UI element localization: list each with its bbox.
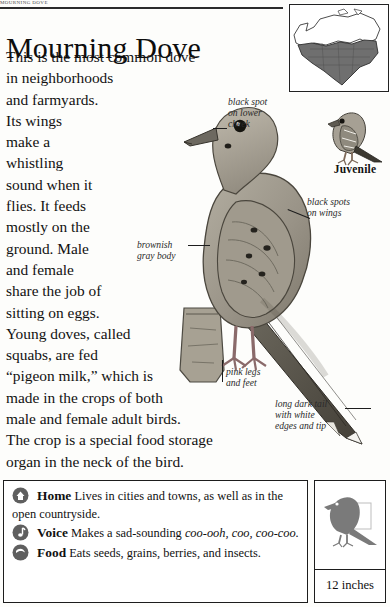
range-map: [289, 4, 389, 92]
fact-row-home: Home Lives in cities and towns, as well …: [12, 487, 299, 523]
fact-text-voice: Makes a sad-sounding: [71, 526, 185, 540]
juvenile-label: Juvenile: [322, 163, 388, 175]
header-rule: [0, 7, 283, 9]
running-head: MOURNING DOVE: [0, 0, 132, 6]
field-guide-page: MOURNING DOVE Mourning Dove: [0, 0, 390, 607]
voice-note-icon: [12, 524, 29, 541]
callout-tail: long dark tail with white edges and tip: [275, 398, 327, 432]
fact-text-food: Eats seeds, grains, berries, and insects…: [69, 546, 261, 560]
callout-wings: black spots on wings: [307, 196, 350, 218]
body-paragraph: This is the most common dove in neighbor…: [6, 46, 264, 472]
leader-line-tail: [345, 408, 371, 409]
size-box: 12 inches: [314, 480, 386, 603]
size-measurement: 12 inches: [315, 570, 385, 601]
home-icon: [12, 487, 29, 504]
north-america-range-map-icon: [290, 5, 386, 89]
fact-panel: Home Lives in cities and towns, as well …: [3, 480, 308, 603]
food-seed-icon: [12, 544, 29, 561]
fact-row-food: Food Eats seeds, grains, berries, and in…: [12, 544, 299, 563]
fact-key-voice: Voice: [37, 525, 68, 540]
fact-key-food: Food: [37, 545, 66, 560]
dove-silhouette: [315, 481, 385, 570]
fact-key-home: Home: [37, 488, 71, 503]
body-text: This is the most common dove in neighbor…: [6, 46, 264, 472]
fact-row-voice: Voice Makes a sad-sounding coo-ooh, coo,…: [12, 524, 299, 543]
fact-emphasis-voice: coo-ooh, coo, coo-coo.: [185, 526, 299, 540]
